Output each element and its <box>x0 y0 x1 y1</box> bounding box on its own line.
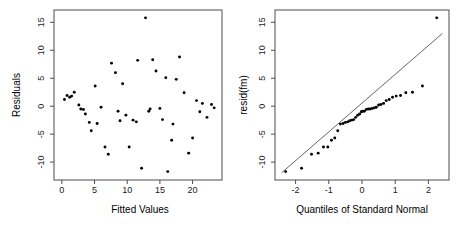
data-point <box>213 106 216 109</box>
data-point <box>73 91 76 94</box>
data-point <box>210 103 213 106</box>
data-point <box>399 94 402 97</box>
qq-reference-line <box>282 33 443 172</box>
data-point <box>135 120 138 123</box>
data-point <box>104 146 107 149</box>
x-axis-ticks-right <box>296 180 429 184</box>
data-point <box>166 170 169 173</box>
scatter-points-left <box>63 16 216 173</box>
data-point <box>82 108 85 111</box>
data-point <box>94 85 97 88</box>
data-point <box>155 70 158 73</box>
data-point <box>183 91 186 94</box>
y-axis-tick-labels-left: -10-5051015 <box>36 17 46 168</box>
x-tick-label: 10 <box>122 185 132 195</box>
data-point <box>191 137 194 140</box>
x-axis-title-left: Fitted Values <box>111 204 169 215</box>
data-point <box>96 122 99 125</box>
data-point <box>149 108 152 111</box>
data-point <box>300 167 303 170</box>
data-point <box>317 152 320 155</box>
y-tick-label: -10 <box>257 156 267 169</box>
y-tick-label: -10 <box>36 156 46 169</box>
data-point <box>391 96 394 99</box>
data-point <box>388 98 391 101</box>
x-tick-label: -1 <box>325 185 333 195</box>
normal-qq-plot: -10-5051015 -2-1012 Quantiles of Standar… <box>229 0 458 228</box>
data-point <box>175 78 178 81</box>
data-point <box>382 102 385 105</box>
data-point <box>151 58 154 61</box>
x-tick-label: 15 <box>155 185 165 195</box>
residuals-vs-fitted-panel: -10-5051015 05101520 Fitted Values Resid… <box>0 0 229 228</box>
data-point <box>379 103 382 106</box>
x-axis-ticks-left <box>62 180 193 184</box>
x-tick-label: 0 <box>59 185 64 195</box>
data-point <box>84 113 87 116</box>
data-point <box>201 102 204 105</box>
data-point <box>172 123 175 126</box>
data-point <box>77 104 80 107</box>
data-point <box>170 139 173 142</box>
data-point <box>136 59 139 62</box>
x-tick-label: -2 <box>292 185 300 195</box>
data-point <box>385 99 388 102</box>
data-point <box>404 91 407 94</box>
data-point <box>421 85 424 88</box>
data-point <box>178 56 181 59</box>
x-tick-label: 2 <box>426 185 431 195</box>
y-tick-label: -5 <box>36 130 46 138</box>
plot-frame-left <box>54 10 222 180</box>
y-tick-label: 5 <box>257 76 267 81</box>
data-point <box>333 137 336 140</box>
data-point <box>63 98 66 101</box>
y-axis-ticks-right <box>271 22 275 162</box>
x-tick-label: 5 <box>92 185 97 195</box>
y-tick-label: 15 <box>36 17 46 27</box>
data-point <box>187 152 190 155</box>
data-point <box>310 153 313 156</box>
data-point <box>411 91 414 94</box>
data-point <box>124 114 127 117</box>
data-point <box>107 153 110 156</box>
x-tick-label: 1 <box>393 185 398 195</box>
data-point <box>128 146 131 149</box>
data-point <box>395 95 398 98</box>
data-point <box>119 119 122 122</box>
data-point <box>110 62 113 65</box>
y-tick-label: 10 <box>257 45 267 55</box>
y-tick-label: -5 <box>257 130 267 138</box>
y-axis-tick-labels-right: -10-5051015 <box>257 17 267 168</box>
y-axis-ticks-left <box>50 22 54 162</box>
data-point <box>164 76 167 79</box>
y-tick-label: 15 <box>257 17 267 27</box>
data-point <box>100 106 103 109</box>
data-point <box>435 16 438 19</box>
data-point <box>117 110 120 113</box>
residuals-vs-fitted-plot: -10-5051015 05101520 Fitted Values Resid… <box>0 0 229 228</box>
x-axis-tick-labels-right: -2-1012 <box>292 185 431 195</box>
data-point <box>88 121 91 124</box>
data-point <box>114 71 117 74</box>
x-axis-tick-labels-left: 05101520 <box>59 185 197 195</box>
y-tick-label: 5 <box>36 76 46 81</box>
data-point <box>195 99 198 102</box>
plot-frame-right <box>275 10 449 180</box>
data-point <box>158 107 161 110</box>
data-point <box>121 82 124 85</box>
data-point <box>66 94 69 97</box>
y-tick-label: 10 <box>36 45 46 55</box>
y-tick-label: 0 <box>36 104 46 109</box>
data-point <box>330 139 333 142</box>
y-tick-label: 0 <box>257 104 267 109</box>
scatter-points-right <box>284 16 438 173</box>
y-axis-title-left: Residuals <box>11 73 22 117</box>
data-point <box>70 95 73 98</box>
data-point <box>198 110 201 113</box>
data-point <box>284 170 287 173</box>
data-point <box>375 106 378 109</box>
y-axis-title-right: resid(fm) <box>238 75 249 114</box>
figure-root: -10-5051015 05101520 Fitted Values Resid… <box>0 0 458 228</box>
data-point <box>336 129 339 132</box>
data-point <box>322 146 325 149</box>
